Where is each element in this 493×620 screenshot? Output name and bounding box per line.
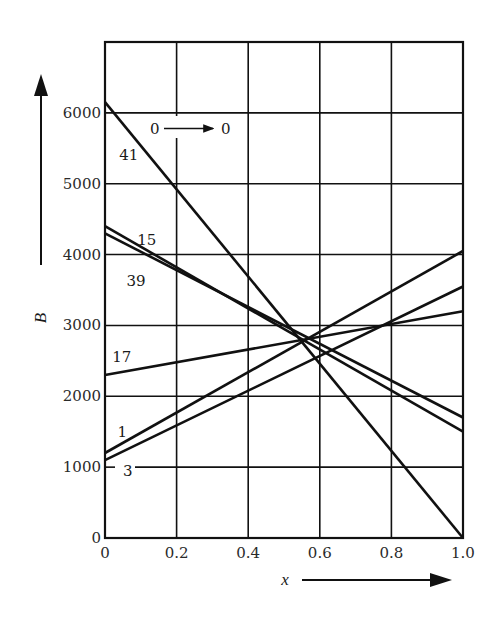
series-label-1: 1 bbox=[118, 423, 128, 441]
plot-frame bbox=[105, 42, 463, 538]
x-tick-label: 0 bbox=[100, 544, 110, 562]
series-lines bbox=[105, 102, 463, 538]
series-labels: 4115391713 bbox=[112, 146, 156, 479]
y-tick-label: 5000 bbox=[63, 175, 101, 193]
arrow-right-icon bbox=[430, 573, 452, 587]
series-label-41: 41 bbox=[119, 146, 138, 164]
series-line-1 bbox=[105, 251, 463, 453]
arrow-up-icon bbox=[34, 74, 48, 96]
x-tick-label: 0.4 bbox=[236, 544, 260, 562]
y-tick-label: 0 bbox=[91, 529, 101, 547]
y-tick-label: 3000 bbox=[63, 316, 101, 334]
x-tick-label: 0.8 bbox=[379, 544, 403, 562]
x-axis-direction: x bbox=[280, 570, 452, 589]
x-tick-label: 0.2 bbox=[165, 544, 189, 562]
annotation-zero-arrow: 0 0 bbox=[150, 120, 231, 138]
y-axis-direction: B bbox=[31, 74, 50, 323]
series-label-15: 15 bbox=[137, 231, 156, 249]
y-tick-labels: 0100020003000400050006000 bbox=[63, 104, 101, 547]
annotation-from: 0 bbox=[150, 120, 160, 138]
y-axis-title: B bbox=[31, 312, 50, 323]
y-tick-label: 2000 bbox=[63, 387, 101, 405]
x-axis-title: x bbox=[280, 570, 289, 589]
series-line-15 bbox=[105, 226, 463, 432]
annotation-to: 0 bbox=[221, 120, 231, 138]
x-tick-label: 0.6 bbox=[308, 544, 332, 562]
series-label-17: 17 bbox=[112, 348, 131, 366]
series-label-3: 3 bbox=[123, 462, 133, 480]
y-tick-label: 4000 bbox=[63, 246, 101, 264]
series-label-39: 39 bbox=[126, 272, 145, 290]
y-tick-label: 1000 bbox=[63, 458, 101, 476]
chart: 4115391713 00.20.40.60.81.0 010002000300… bbox=[0, 0, 493, 620]
y-tick-label: 6000 bbox=[63, 104, 101, 122]
grid bbox=[105, 42, 463, 538]
x-tick-label: 1.0 bbox=[451, 544, 475, 562]
series-line-3 bbox=[105, 287, 463, 461]
x-tick-labels: 00.20.40.60.81.0 bbox=[100, 544, 475, 562]
